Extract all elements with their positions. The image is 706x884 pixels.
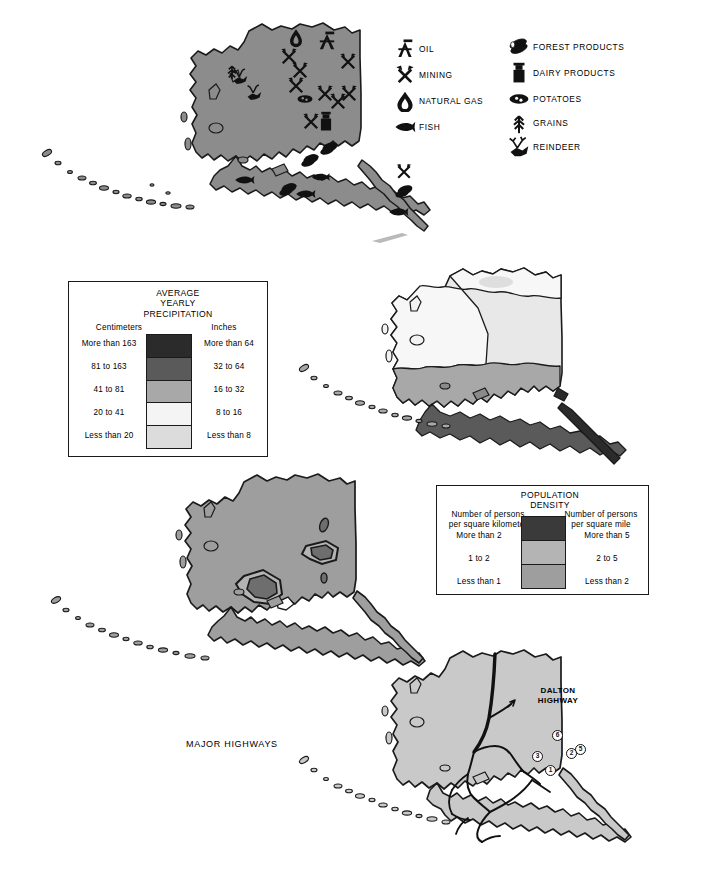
precip-label-cm-3: 20 to 41 bbox=[71, 408, 147, 418]
precip-swatch-more-than-163 bbox=[147, 335, 191, 358]
pop-label-km-0: More than 2 bbox=[439, 531, 519, 541]
major-highways-caption: MAJOR HIGHWAYS bbox=[186, 739, 278, 749]
pop-label-mi-1: 2 to 5 bbox=[567, 554, 647, 564]
route-shield-3[interactable]: 3 bbox=[532, 751, 543, 762]
resources-map bbox=[0, 0, 440, 240]
oil-derrick-icon bbox=[394, 38, 416, 60]
precip-right-heading: Inches bbox=[185, 323, 263, 332]
crossed-pickaxes-icon bbox=[397, 164, 411, 178]
key-label-natural-gas: NATURAL GAS bbox=[419, 96, 483, 106]
precip-label-in-2: 16 to 32 bbox=[191, 385, 267, 395]
key-item-reindeer: REINDEER bbox=[508, 136, 581, 158]
precip-label-in-3: 8 to 16 bbox=[191, 408, 267, 418]
precip-label-cm-4: Less than 20 bbox=[71, 431, 147, 441]
key-item-oil: OIL bbox=[394, 38, 434, 60]
precipitation-legend: AVERAGE YEARLY PRECIPITATION Centimeters… bbox=[68, 281, 268, 457]
key-label-grains: GRAINS bbox=[533, 118, 568, 128]
dalton-highway-line-1: DALTON bbox=[523, 686, 593, 696]
precipitation-legend-title: AVERAGE YEARLY PRECIPITATION bbox=[103, 288, 253, 319]
pop-right-heading: Number of persons per square mile bbox=[555, 510, 647, 531]
key-label-forest-products: FOREST PRODUCTS bbox=[533, 42, 624, 52]
key-item-dairy-products: DAIRY PRODUCTS bbox=[508, 62, 615, 84]
resources-key: OIL MINING NATURAL GAS bbox=[394, 34, 694, 164]
precip-title-line-1: AVERAGE bbox=[103, 288, 253, 298]
crossed-pickaxes-icon bbox=[394, 64, 416, 86]
key-label-reindeer: REINDEER bbox=[533, 142, 581, 152]
potato-icon bbox=[508, 88, 530, 110]
precip-label-in-4: Less than 8 bbox=[191, 431, 267, 441]
map-sheet: OIL MINING NATURAL GAS bbox=[0, 0, 706, 884]
grain-stalk-icon bbox=[228, 66, 236, 79]
precip-swatch-81-163 bbox=[147, 358, 191, 381]
pop-swatch-more-than-2 bbox=[522, 517, 565, 541]
key-item-grains: GRAINS bbox=[508, 112, 568, 134]
precipitation-swatch-column bbox=[146, 334, 192, 449]
grain-stalk-icon bbox=[508, 112, 530, 134]
precip-label-cm-1: 81 to 163 bbox=[71, 362, 147, 372]
gas-flame-icon bbox=[394, 90, 416, 112]
route-shield-6[interactable]: 6 bbox=[552, 730, 563, 741]
population-legend-title: POPULATION DENSITY bbox=[485, 490, 615, 511]
alaska-landmass-precipitation bbox=[298, 268, 626, 464]
population-swatch-column bbox=[521, 516, 566, 589]
key-label-potatoes: POTATOES bbox=[533, 94, 582, 104]
precip-title-line-2: YEARLY bbox=[103, 298, 253, 308]
population-density-legend: POPULATION DENSITY Number of persons per… bbox=[436, 485, 649, 595]
route-shield-2[interactable]: 2 bbox=[566, 748, 577, 759]
precip-label-cm-2: 41 to 81 bbox=[71, 385, 147, 395]
precip-left-heading: Centimeters bbox=[77, 323, 161, 332]
key-label-mining: MINING bbox=[419, 70, 453, 80]
pop-right-heading-line-2: per square mile bbox=[555, 520, 647, 530]
precip-swatch-less-than-20 bbox=[147, 426, 191, 448]
key-item-mining: MINING bbox=[394, 64, 453, 86]
pop-label-km-2: Less than 1 bbox=[439, 577, 519, 587]
precip-swatch-20-41 bbox=[147, 403, 191, 426]
key-item-fish: FISH bbox=[394, 116, 440, 138]
fish-icon bbox=[394, 116, 416, 138]
precip-title-line-3: PRECIPITATION bbox=[103, 309, 253, 319]
key-item-natural-gas: NATURAL GAS bbox=[394, 90, 483, 112]
dalton-highway-label: DALTON HIGHWAY bbox=[523, 686, 593, 706]
key-item-forest-products: FOREST PRODUCTS bbox=[508, 36, 624, 58]
key-label-dairy-products: DAIRY PRODUCTS bbox=[533, 68, 615, 78]
pop-label-km-1: 1 to 2 bbox=[439, 554, 519, 564]
dalton-highway-line-2: HIGHWAY bbox=[523, 696, 593, 706]
pop-title-line-1: POPULATION bbox=[485, 490, 615, 500]
key-label-fish: FISH bbox=[419, 122, 440, 132]
pop-label-mi-2: Less than 2 bbox=[567, 577, 647, 587]
reindeer-icon bbox=[508, 136, 530, 158]
potato-icon bbox=[298, 95, 313, 103]
highways-map bbox=[282, 638, 706, 878]
precip-label-cm-0: More than 163 bbox=[71, 339, 147, 349]
logs-icon bbox=[300, 152, 320, 168]
pop-right-heading-line-1: Number of persons bbox=[555, 510, 647, 520]
pop-label-mi-0: More than 5 bbox=[567, 531, 647, 541]
key-item-potatoes: POTATOES bbox=[508, 88, 582, 110]
alaska-landmass-resources bbox=[41, 23, 430, 231]
route-shield-1[interactable]: 1 bbox=[545, 765, 556, 776]
precip-swatch-41-81 bbox=[147, 381, 191, 404]
precip-label-in-1: 32 to 64 bbox=[191, 362, 267, 372]
pop-swatch-less-than-1 bbox=[522, 565, 565, 588]
logs-icon bbox=[508, 36, 530, 58]
milk-can-icon bbox=[508, 62, 530, 84]
precip-label-in-0: More than 64 bbox=[191, 339, 267, 349]
precipitation-map bbox=[282, 238, 706, 470]
pop-swatch-1-to-2 bbox=[522, 541, 565, 565]
key-label-oil: OIL bbox=[419, 44, 434, 54]
